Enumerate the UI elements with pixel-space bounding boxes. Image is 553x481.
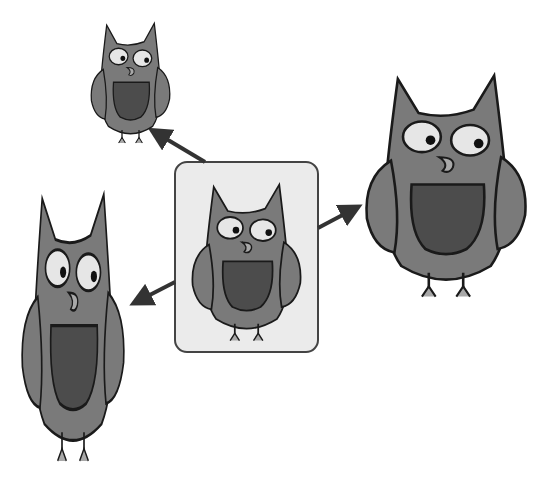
arrow-to-large-owl bbox=[318, 210, 352, 228]
stretched-vertical-owl bbox=[22, 194, 124, 461]
scaled-up-owl bbox=[366, 76, 525, 297]
diagram-canvas bbox=[0, 0, 553, 481]
scaled-down-owl bbox=[91, 23, 170, 143]
arrow-to-tall-owl bbox=[140, 282, 175, 300]
arrow-to-small-owl bbox=[158, 134, 205, 162]
